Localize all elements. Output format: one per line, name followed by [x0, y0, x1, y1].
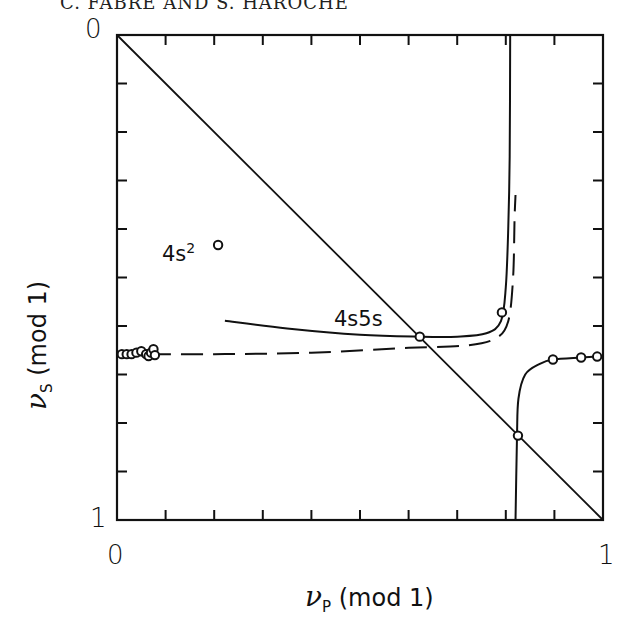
y-tick-label-1: 1 — [90, 503, 107, 533]
x-tick-label-1: 1 — [598, 540, 615, 570]
data-point-marker — [549, 355, 557, 363]
data-point-marker — [514, 431, 522, 439]
data-point-marker — [416, 332, 424, 340]
x-axis-label: νP (mod 1) — [305, 580, 434, 616]
annot-4s2-sup: 2 — [186, 240, 195, 256]
x-axis-mod: (mod 1) — [339, 584, 434, 612]
annotation-4s2: 4s2 — [162, 240, 195, 266]
lower-branch-curve — [516, 357, 598, 520]
annot-4s2-base: 4s — [162, 242, 186, 266]
y-axis-nu: ν — [20, 393, 53, 410]
data-point-marker — [593, 352, 601, 360]
annotation-4s5s: 4s5s — [334, 307, 383, 331]
data-point-marker — [498, 308, 506, 316]
x-tick-label-0: 0 — [107, 540, 124, 570]
data-point-marker — [151, 351, 159, 359]
y-axis-mod: (mod 1) — [24, 281, 52, 376]
chart-plot-area — [0, 0, 618, 630]
chart-series — [117, 35, 603, 520]
x-axis-nu: ν — [305, 580, 322, 613]
y-axis-label: νS (mod 1) — [20, 281, 56, 410]
y-tick-label-0: 0 — [85, 14, 102, 44]
x-axis-sub: P — [322, 598, 331, 616]
y-axis-sub: S — [38, 383, 56, 393]
diagonal-line — [117, 35, 603, 520]
data-point-marker — [214, 241, 222, 249]
data-point-marker — [577, 353, 585, 361]
